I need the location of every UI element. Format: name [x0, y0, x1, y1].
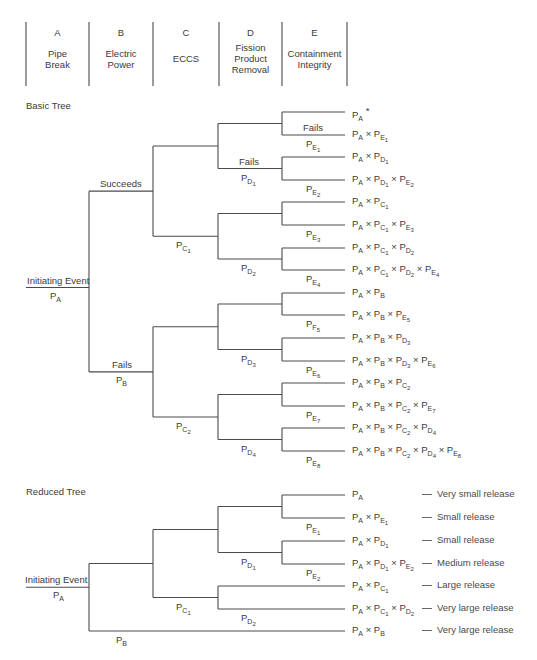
fails-b-label: Fails: [112, 359, 132, 370]
column-header-e: EContainmentIntegrity: [283, 27, 346, 87]
reduced-outcome-expression: PA × PD1: [352, 534, 389, 552]
prob-pe8: PE8: [306, 454, 320, 472]
prob-pe3: PE3: [306, 228, 320, 246]
outcome-expression: PA × PB × PC2 × PD4 × PE8: [352, 444, 461, 462]
outcome-expression: PA × PC1 × PD2: [352, 241, 414, 259]
reduced-outcome-expression: PA × PC1: [352, 579, 389, 597]
outcome-expression: PA × PB × PD3: [352, 331, 410, 349]
reduced-prob-pb: PB: [116, 634, 127, 650]
outcome-expression: PA × PB: [352, 286, 385, 302]
release-category: Very large release: [422, 602, 514, 613]
release-category: Very large release: [422, 624, 514, 635]
column-header-d: DFissionProductRemoval: [220, 27, 281, 87]
basic-tree-title: Basic Tree: [26, 100, 71, 111]
reduced-outcome-expression: PA × PD1 × PE2: [352, 557, 414, 575]
prob-pd1: PD1: [241, 172, 256, 190]
column-letter: B: [90, 27, 152, 41]
outcome-expression: PA × PC1 × PE3: [352, 218, 414, 236]
prob-pe2: PE2: [306, 183, 320, 201]
reduced-outcome-expression: PA: [352, 488, 363, 504]
prob-pd3: PD3: [241, 353, 256, 371]
fails-e-label: Fails: [303, 122, 323, 133]
reduced-prob-pe2: PE2: [306, 567, 320, 585]
outcome-expression: PA *: [352, 105, 369, 125]
column-letter: A: [27, 27, 88, 41]
column-header-b: BElectricPower: [90, 27, 152, 87]
release-category: Large release: [422, 579, 495, 590]
outcome-expression: PA × PD1 × PE2: [352, 173, 414, 191]
prob-pc1: PC1: [176, 239, 191, 257]
release-category: Small release: [422, 534, 495, 545]
column-header-a: APipeBreak: [27, 27, 88, 87]
outcome-expression: PA × PE1: [352, 128, 388, 146]
reduced-prob-pe1: PE1: [306, 521, 320, 539]
fails-d-label: Fails: [239, 156, 259, 167]
outcome-expression: PA × PB × PE5: [352, 308, 410, 326]
outcome-expression: PA × PC1: [352, 195, 389, 213]
outcome-expression: PA × PB × PC2 × PE7: [352, 399, 436, 417]
reduced-initiating-event-label: Initiating Event: [25, 574, 87, 585]
prob-pe1: PE1: [306, 138, 320, 156]
outcome-expression: PA × PB × PC2 × PD4: [352, 421, 436, 439]
column-name: ECCS: [154, 53, 218, 64]
column-letter: E: [283, 27, 346, 41]
outcome-expression: PA × PD1: [352, 150, 389, 168]
reduced-outcome-expression: PA × PB: [352, 624, 385, 640]
release-category: Very small release: [422, 488, 515, 499]
reduced-initiating-event-prob: PA: [53, 589, 64, 605]
initiating-event-label: Initiating Event: [27, 275, 89, 286]
prob-pd4: PD4: [241, 443, 256, 461]
outcome-expression: PA × PB × PD3 × PE6: [352, 354, 436, 372]
reduced-prob-pc1: PC1: [176, 601, 191, 619]
event-tree-figure: APipeBreakBElectricPowerCECCSDFissionPro…: [0, 0, 537, 660]
release-category: Medium release: [422, 557, 505, 568]
reduced-outcome-expression: PA × PE1: [352, 511, 388, 529]
column-name: FissionProductRemoval: [220, 42, 281, 75]
column-name: ElectricPower: [90, 48, 152, 70]
reduced-prob-pd2: PD2: [241, 612, 256, 630]
column-name: ContainmentIntegrity: [283, 48, 346, 70]
outcome-expression: PA × PC1 × PD2 × PE4: [352, 263, 439, 281]
prob-pe6: PE6: [306, 364, 320, 382]
column-letter: C: [154, 27, 218, 41]
prob-pe5: PF5: [306, 318, 320, 336]
column-header-c: CECCS: [154, 27, 218, 87]
reduced-tree-title: Reduced Tree: [26, 486, 86, 497]
prob-pe7: PE7: [306, 409, 320, 427]
reduced-outcome-expression: PA × PC1 × PD2: [352, 602, 414, 620]
prob-pd2: PD2: [241, 262, 256, 280]
outcome-expression: PA × PB × PC2: [352, 376, 410, 394]
prob-pe4: PE4: [306, 273, 320, 291]
prob-pb: PB: [116, 374, 127, 390]
column-name: PipeBreak: [27, 48, 88, 70]
prob-pc2: PC2: [176, 420, 191, 438]
release-category: Small release: [422, 511, 495, 522]
initiating-event-prob: PA: [50, 290, 61, 306]
reduced-prob-pd1: PD1: [241, 556, 256, 574]
succeeds-label: Succeeds: [100, 178, 142, 189]
column-letter: D: [220, 27, 281, 41]
